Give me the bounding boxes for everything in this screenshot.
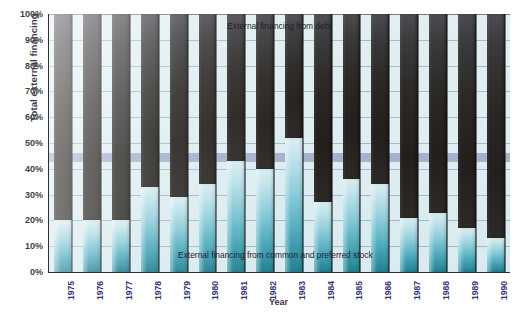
bar-group-1987[interactable] (400, 14, 418, 272)
y-tick-90: 90% (25, 35, 43, 45)
bar-group-1984[interactable] (314, 14, 332, 272)
bar-edge-1976 (100, 14, 102, 272)
chart-figure: Total external financing 0%10%20%30%40%5… (0, 0, 523, 317)
bar-stock-1979[interactable] (170, 197, 188, 272)
bar-stock-1984[interactable] (314, 202, 332, 272)
bar-edge-1988 (446, 14, 448, 272)
bar-debt-1982[interactable] (256, 14, 274, 169)
x-axis-title: Year (48, 297, 509, 307)
bar-debt-1977[interactable] (112, 14, 130, 220)
bar-edge-1980 (215, 14, 217, 272)
plot-area: External financing from debt External fi… (48, 14, 510, 273)
bar-group-1975[interactable] (54, 14, 72, 272)
bar-group-1981[interactable] (227, 14, 245, 272)
y-tick-0: 0% (30, 267, 43, 277)
y-tick-20: 20% (25, 215, 43, 225)
bar-debt-1990[interactable] (487, 14, 505, 238)
bar-edge-1975 (71, 14, 73, 272)
bar-group-1977[interactable] (112, 14, 130, 272)
bar-edge-1984 (331, 14, 333, 272)
bar-stock-1990[interactable] (487, 238, 505, 272)
bar-group-1985[interactable] (343, 14, 361, 272)
bar-group-1990[interactable] (487, 14, 505, 272)
bar-stock-1986[interactable] (371, 184, 389, 272)
y-tick-50: 50% (25, 138, 43, 148)
bar-stock-1988[interactable] (429, 213, 447, 272)
bar-edge-1986 (388, 14, 390, 272)
bar-debt-1988[interactable] (429, 14, 447, 213)
bar-group-1976[interactable] (83, 14, 101, 272)
bar-stock-1977[interactable] (112, 220, 130, 272)
annotation-debt-label: External financing from debt (227, 21, 331, 31)
bar-edge-1977 (129, 14, 131, 272)
bar-debt-1986[interactable] (371, 14, 389, 184)
bar-debt-1976[interactable] (83, 14, 101, 220)
y-tick-40: 40% (25, 164, 43, 174)
bar-group-1986[interactable] (371, 14, 389, 272)
bar-debt-1985[interactable] (343, 14, 361, 179)
bar-group-1988[interactable] (429, 14, 447, 272)
bar-debt-1975[interactable] (54, 14, 72, 220)
bar-edge-1981 (244, 14, 246, 272)
bar-group-1982[interactable] (256, 14, 274, 272)
bar-edge-1983 (302, 14, 304, 272)
y-tick-60: 60% (25, 112, 43, 122)
bar-group-1989[interactable] (458, 14, 476, 272)
bar-edge-1987 (417, 14, 419, 272)
bar-stock-1987[interactable] (400, 218, 418, 272)
bar-debt-1979[interactable] (170, 14, 188, 197)
bar-debt-1989[interactable] (458, 14, 476, 228)
bar-stock-1978[interactable] (141, 187, 159, 272)
bar-stock-1989[interactable] (458, 228, 476, 272)
bar-group-1980[interactable] (199, 14, 217, 272)
bar-group-1978[interactable] (141, 14, 159, 272)
bar-edge-1985 (359, 14, 361, 272)
bar-edge-1990 (504, 14, 506, 272)
bar-stock-1975[interactable] (54, 220, 72, 272)
y-tick-30: 30% (25, 190, 43, 200)
bar-debt-1980[interactable] (199, 14, 217, 184)
y-tick-70: 70% (25, 86, 43, 96)
y-tick-80: 80% (25, 61, 43, 71)
bar-group-1979[interactable] (170, 14, 188, 272)
bar-edge-1982 (273, 14, 275, 272)
bar-debt-1978[interactable] (141, 14, 159, 187)
bar-debt-1987[interactable] (400, 14, 418, 218)
y-tick-10: 10% (25, 241, 43, 251)
y-tick-100: 100% (20, 9, 43, 19)
bar-group-1983[interactable] (285, 14, 303, 272)
bar-debt-1984[interactable] (314, 14, 332, 202)
bar-stock-1976[interactable] (83, 220, 101, 272)
annotation-stock-label: External financing from common and prefe… (178, 250, 373, 260)
bar-edge-1989 (475, 14, 477, 272)
bar-edge-1978 (158, 14, 160, 272)
bar-edge-1979 (187, 14, 189, 272)
bar-debt-1981[interactable] (227, 14, 245, 161)
bar-debt-1983[interactable] (285, 14, 303, 138)
y-axis-tick-labels: 0%10%20%30%40%50%60%70%80%90%100% (0, 0, 46, 317)
